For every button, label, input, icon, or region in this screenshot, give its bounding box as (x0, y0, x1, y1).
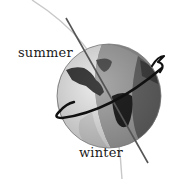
label-summer: summer (18, 46, 73, 59)
earth-tilt-diagram: summer winter (0, 0, 174, 179)
label-winter: winter (79, 146, 123, 159)
